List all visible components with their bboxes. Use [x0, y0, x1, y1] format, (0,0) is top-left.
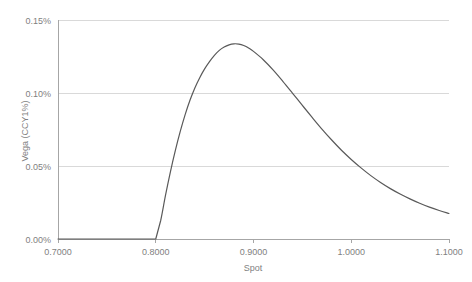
y-axis-tick-label: 0.05%	[25, 162, 51, 172]
chart-container: 0.00%0.05%0.10%0.15% 0.70000.80000.90001…	[0, 0, 472, 282]
x-axis-tick-label: 0.8000	[142, 247, 170, 257]
x-axis-title: Spot	[244, 263, 263, 273]
y-axis-tick-label: 0.00%	[25, 235, 51, 245]
y-axis-title: Vega (CCY1%)	[20, 100, 30, 161]
x-axis-tick-label: 0.9000	[240, 247, 268, 257]
y-axis-tick-label: 0.15%	[25, 16, 51, 26]
vega-spot-line-chart: 0.00%0.05%0.10%0.15% 0.70000.80000.90001…	[0, 0, 472, 282]
x-axis-tick-label: 0.7000	[44, 247, 72, 257]
x-axis-tick-label: 1.0000	[337, 247, 365, 257]
x-axis-tick-label: 1.1000	[435, 247, 463, 257]
chart-background	[0, 0, 472, 282]
y-axis-tick-label: 0.10%	[25, 89, 51, 99]
